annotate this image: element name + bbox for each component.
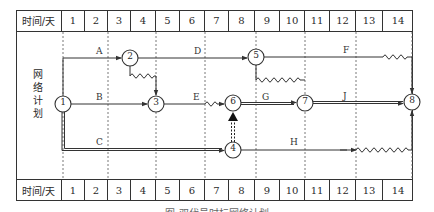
node-7: 7: [297, 96, 313, 106]
label-F: F: [343, 45, 349, 55]
dummy-2-3: [130, 66, 156, 95]
activity-C: [62, 112, 224, 151]
label-G: G: [262, 92, 269, 102]
activity-F: [264, 55, 412, 93]
node-6: 6: [225, 96, 241, 106]
label-B: B: [96, 92, 103, 102]
label-C: C: [96, 137, 103, 147]
activity-H: [241, 111, 412, 152]
node-2: 2: [122, 51, 138, 61]
node-8: 8: [404, 95, 420, 105]
label-D: D: [194, 46, 201, 56]
label-E: E: [193, 92, 200, 102]
node-1: 1: [55, 97, 71, 107]
time-scaled-network-diagram: 时间/天 1 2 3 4 5 6 7 8 9 10 11 12 13 14 时间…: [0, 0, 434, 212]
bold-arrowhead-icon: [228, 112, 238, 121]
activity-A: [63, 58, 121, 96]
label-A: A: [95, 46, 103, 56]
node-5: 5: [248, 50, 264, 60]
node-4: 4: [225, 143, 241, 153]
node-3: 3: [148, 97, 164, 107]
label-H: H: [290, 137, 298, 147]
figure-caption: 图 双代号时标网络计划: [0, 205, 434, 212]
label-J: J: [342, 91, 347, 101]
activity-E: [164, 102, 224, 106]
dummy-5-7: [256, 65, 305, 82]
dummy-4-6: [232, 120, 235, 142]
